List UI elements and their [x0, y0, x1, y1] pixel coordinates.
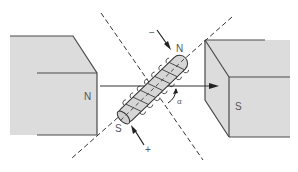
right-magnet — [205, 40, 290, 137]
left-magnet — [10, 36, 97, 135]
coil — [112, 49, 193, 129]
coil-top-pole-label: N — [176, 43, 183, 54]
coil-bottom-terminal-lead — [131, 125, 144, 145]
coil-bottom-terminal-sign: + — [145, 144, 151, 155]
diagram-canvas: N S — [0, 0, 298, 172]
right-magnet-pole-label: S — [235, 101, 242, 112]
coil-in-magnetic-field-diagram: N S — [0, 0, 298, 172]
coil-bottom-pole-label: S — [115, 123, 122, 134]
angle-label: α — [177, 97, 182, 106]
coil-top-terminal-sign: − — [149, 27, 155, 38]
left-magnet-pole-label: N — [84, 91, 91, 102]
coil-top-terminal-lead — [157, 30, 171, 50]
angle-arc-arrow-icon — [173, 88, 178, 94]
